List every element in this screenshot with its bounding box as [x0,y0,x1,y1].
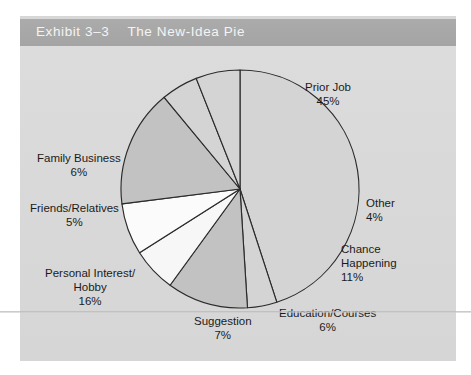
pie-label-other: Other 4% [366,196,395,224]
pie-label-other-text: Other [366,197,395,209]
pie-label-chance-happening-text2: Happening [341,256,397,270]
pie-label-suggestion-value: 7% [194,328,252,342]
pie-label-family-business-text: Family Business [37,152,121,164]
exhibit-figure: Exhibit 3–3The New-Idea Pie Prior Job 45… [0,0,471,375]
pie-label-personal-interest-text2: Hobby [45,280,135,294]
pie-label-prior-job-text: Prior Job [305,81,351,93]
pie-label-suggestion-text: Suggestion [194,315,252,327]
pie-label-personal-interest-value: 16% [45,294,135,308]
pie-label-other-value: 4% [366,210,395,224]
pie-label-family-business: Family Business 6% [37,151,121,179]
pie-label-education-courses-value: 6% [279,320,376,334]
scan-artifact-line-secondary [0,312,471,313]
pie-label-suggestion: Suggestion 7% [194,314,252,342]
pie-label-personal-interest-text: Personal Interest/ [45,267,135,279]
pie-label-prior-job: Prior Job 45% [305,80,351,108]
pie-label-personal-interest: Personal Interest/ Hobby 16% [45,266,135,308]
pie-label-chance-happening: Chance Happening 11% [341,242,397,284]
pie-label-friends-relatives: Friends/Relatives 5% [30,201,119,229]
pie-label-prior-job-value: 45% [305,94,351,108]
pie-label-chance-happening-text: Chance [341,243,381,255]
pie-label-family-business-value: 6% [37,165,121,179]
pie-label-chance-happening-value: 11% [341,270,397,284]
pie-label-friends-relatives-value: 5% [30,215,119,229]
pie-label-education-courses-text: Education/Courses [279,307,376,319]
pie-label-friends-relatives-text: Friends/Relatives [30,202,119,214]
